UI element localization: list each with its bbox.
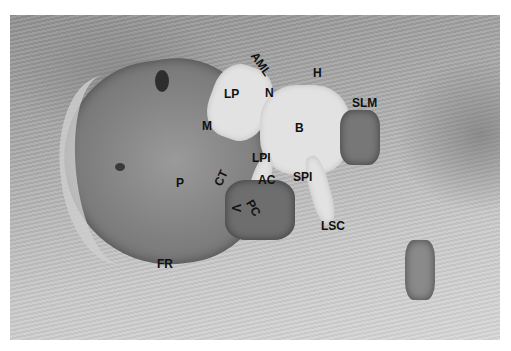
mastoid-cell [405,240,435,300]
label-spi: SPI [293,171,312,183]
dark-recess [115,163,125,171]
label-lsc: LSC [321,220,345,232]
label-v: V [230,204,242,212]
label-ac: AC [258,174,275,186]
mastoid-cell [340,110,380,165]
label-fr: FR [157,258,173,270]
label-lp: LP [224,88,239,100]
label-slm: SLM [352,97,377,109]
label-b: B [295,122,304,134]
label-h: H [313,67,322,79]
label-p: P [176,177,184,189]
label-m: M [202,120,212,132]
dark-recess [155,70,169,92]
label-n: N [265,87,274,99]
label-lpi: LPI [252,152,271,164]
